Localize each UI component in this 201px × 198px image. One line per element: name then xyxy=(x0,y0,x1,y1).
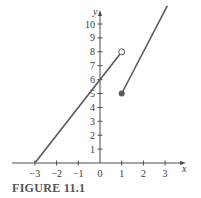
ticks: −3−2−1012312345678910 xyxy=(30,19,168,180)
x-tick-label: 3 xyxy=(163,168,168,179)
figure-caption: FIGURE 11.1 xyxy=(12,181,85,196)
x-tick-label: −1 xyxy=(73,168,84,179)
x-tick-label: 0 xyxy=(98,168,103,179)
function-segment xyxy=(122,6,168,94)
y-tick-label: 1 xyxy=(90,144,95,155)
x-tick-label: 2 xyxy=(141,168,146,179)
y-tick-label: 2 xyxy=(90,130,95,141)
y-tick-label: 7 xyxy=(90,60,95,71)
y-tick-label: 10 xyxy=(85,19,95,30)
y-tick-label: 4 xyxy=(90,102,95,113)
y-tick-label: 8 xyxy=(90,46,95,57)
y-tick-label: 6 xyxy=(90,74,95,85)
y-axis-arrow-icon xyxy=(98,10,102,16)
function-segment xyxy=(35,54,120,163)
open-circle-icon xyxy=(119,49,125,55)
x-axis-label: x xyxy=(181,163,187,174)
y-tick-label: 9 xyxy=(90,32,95,43)
y-axis-label: y xyxy=(92,6,98,17)
x-tick-label: −3 xyxy=(30,168,41,179)
plot-lines xyxy=(35,6,167,163)
filled-dot-icon xyxy=(119,91,125,97)
x-tick-label: −2 xyxy=(51,168,62,179)
x-tick-label: 1 xyxy=(119,168,124,179)
y-tick-label: 3 xyxy=(90,116,95,127)
piecewise-function-chart: xy −3−2−1012312345678910 xyxy=(0,0,201,198)
